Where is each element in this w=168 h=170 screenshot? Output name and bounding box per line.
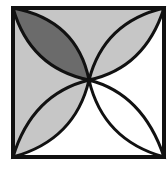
four-petal-square-diagram [0,0,168,170]
